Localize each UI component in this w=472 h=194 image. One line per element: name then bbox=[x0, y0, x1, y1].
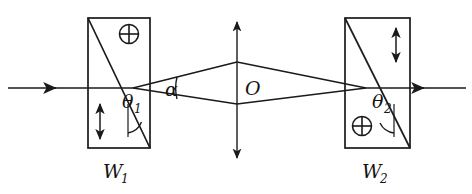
wedge-left-index: 1 bbox=[121, 172, 129, 186]
optical-wedge-diagram: α O θ 1 θ 2 W 1 W 2 bbox=[0, 0, 472, 194]
theta2-arc bbox=[380, 123, 394, 133]
diagram-canvas: α O θ 1 θ 2 W 1 W 2 bbox=[0, 0, 472, 194]
theta2-index: 2 bbox=[383, 102, 392, 116]
lower-ray-left-leg bbox=[133, 88, 237, 104]
wedge-right-diagonal bbox=[345, 18, 410, 148]
circled-plus-icon-w2 bbox=[353, 117, 372, 136]
circled-plus-icon-w1 bbox=[120, 25, 139, 44]
upper-ray-left-leg bbox=[133, 62, 237, 88]
wedge-right-index: 2 bbox=[379, 172, 388, 186]
wedge-left-diagonal bbox=[88, 18, 150, 148]
wedge-right-group bbox=[345, 18, 410, 148]
theta1-index: 1 bbox=[134, 102, 142, 116]
theta2-label: θ bbox=[372, 90, 384, 112]
center-point-label: O bbox=[245, 77, 261, 99]
theta1-label: θ bbox=[122, 90, 134, 112]
alpha-label: α bbox=[165, 78, 178, 100]
wedge-left-group bbox=[88, 18, 150, 148]
